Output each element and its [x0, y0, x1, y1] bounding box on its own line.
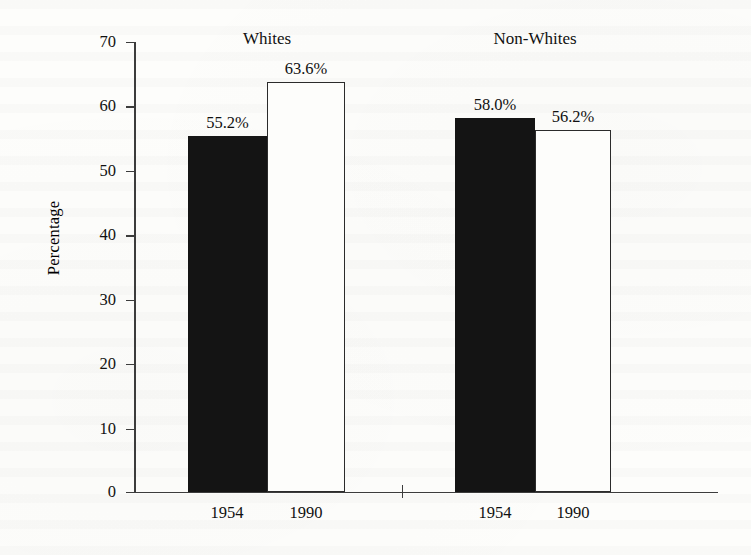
bar-value-non-whites-1990: 56.2%	[512, 109, 634, 126]
y-axis-title: Percentage	[44, 168, 64, 308]
y-tick-label-60: 60	[70, 98, 116, 115]
bar-whites-1954[interactable]	[188, 136, 267, 492]
bar-value-whites-1990: 63.6%	[245, 61, 367, 78]
group-title-whites: Whites	[187, 30, 347, 47]
y-tick-70	[126, 42, 134, 43]
y-tick-60	[126, 106, 134, 107]
chart-page: Percentage 70 60 50 40 30 20 10 0 Whites…	[0, 0, 751, 555]
y-tick-label-70: 70	[70, 34, 116, 51]
y-tick-50	[126, 171, 134, 172]
bar-whites-1990[interactable]	[267, 82, 345, 492]
y-tick-10	[126, 429, 134, 430]
y-tick-label-50: 50	[70, 163, 116, 180]
bar-non-whites-1954[interactable]	[455, 118, 535, 492]
x-label-whites-1990: 1990	[256, 505, 356, 522]
bar-chart-plot: Percentage 70 60 50 40 30 20 10 0 Whites…	[0, 0, 751, 555]
y-tick-0	[126, 492, 134, 493]
y-tick-label-10: 10	[70, 421, 116, 438]
y-tick-label-20: 20	[70, 356, 116, 373]
y-tick-20	[126, 364, 134, 365]
y-tick-label-40: 40	[70, 227, 116, 244]
group-title-non-whites: Non-Whites	[455, 30, 615, 47]
y-tick-label-30: 30	[70, 292, 116, 309]
x-axis-group-separator-tick	[402, 485, 403, 498]
y-tick-30	[126, 300, 134, 301]
y-axis-line	[134, 42, 136, 493]
y-tick-label-0: 0	[70, 484, 116, 501]
bar-non-whites-1990[interactable]	[535, 130, 611, 492]
y-tick-40	[126, 235, 134, 236]
x-label-non-whites-1990: 1990	[523, 505, 623, 522]
